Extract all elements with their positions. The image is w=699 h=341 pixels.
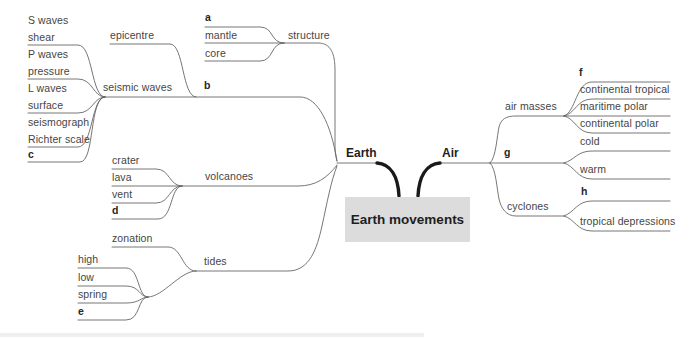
term-a: a xyxy=(205,11,211,24)
page-scan-artifact xyxy=(0,333,424,337)
term-mantle: mantle xyxy=(205,29,237,42)
term-crater: crater xyxy=(112,154,139,167)
hub-earth: Earth xyxy=(346,146,377,160)
node-zonation: zonation xyxy=(112,232,153,245)
term-surface: surface xyxy=(28,99,63,112)
term-f: f xyxy=(579,66,583,79)
connector-structure xyxy=(284,43,337,161)
term-cold: cold xyxy=(580,135,600,148)
connector-h xyxy=(564,201,670,216)
connector-cold xyxy=(564,151,670,163)
connector-zonation xyxy=(112,247,196,271)
connector-air-masses xyxy=(490,116,564,163)
term-vent: vent xyxy=(112,188,132,201)
term-s-waves: S waves xyxy=(28,14,68,27)
ref-letter-g: g xyxy=(504,146,511,159)
term-high: high xyxy=(78,253,98,266)
node-volcanoes: volcanoes xyxy=(205,170,253,183)
connector-seismic-waves xyxy=(105,97,337,161)
term-p-waves: P waves xyxy=(28,48,68,61)
term-shear: shear xyxy=(28,31,55,44)
term-warm: warm xyxy=(580,163,606,176)
node-structure: structure xyxy=(288,29,330,42)
node-seismic-waves: seismic waves xyxy=(103,81,172,94)
term-continental-tropical: continental tropical xyxy=(580,83,670,96)
term-seismograph: seismograph xyxy=(28,116,89,129)
node-air-masses: air masses xyxy=(505,100,557,113)
term-tropical-depressions: tropical depressions xyxy=(580,215,675,228)
term-maritime-polar: maritime polar xyxy=(580,100,648,113)
term-l-waves: L waves xyxy=(28,82,67,95)
term-pressure: pressure xyxy=(28,65,70,78)
term-richter-scale: Richter scale xyxy=(28,133,90,146)
root-label: Earth movements xyxy=(351,212,464,227)
ref-letter-b: b xyxy=(204,79,211,92)
term-continental-polar: continental polar xyxy=(580,117,659,130)
term-h: h xyxy=(581,185,588,198)
air-root-link xyxy=(418,163,440,196)
node-cyclones: cyclones xyxy=(507,200,549,213)
term-core: core xyxy=(205,47,226,60)
term-c: c xyxy=(28,148,34,161)
node-epicentre: epicentre xyxy=(110,29,154,42)
term-d: d xyxy=(112,204,119,217)
node-tides: tides xyxy=(204,255,227,268)
term-low: low xyxy=(78,271,94,284)
root-node: Earth movements xyxy=(345,197,470,242)
mind-map-diagram: S waves shear P waves pressure L waves s… xyxy=(0,0,699,341)
term-e: e xyxy=(78,305,84,318)
hub-air: Air xyxy=(442,146,459,160)
earth-root-link xyxy=(377,163,399,196)
connector-tide-subgroup xyxy=(148,271,196,297)
term-lava: lava xyxy=(112,171,132,184)
term-spring: spring xyxy=(78,288,107,301)
